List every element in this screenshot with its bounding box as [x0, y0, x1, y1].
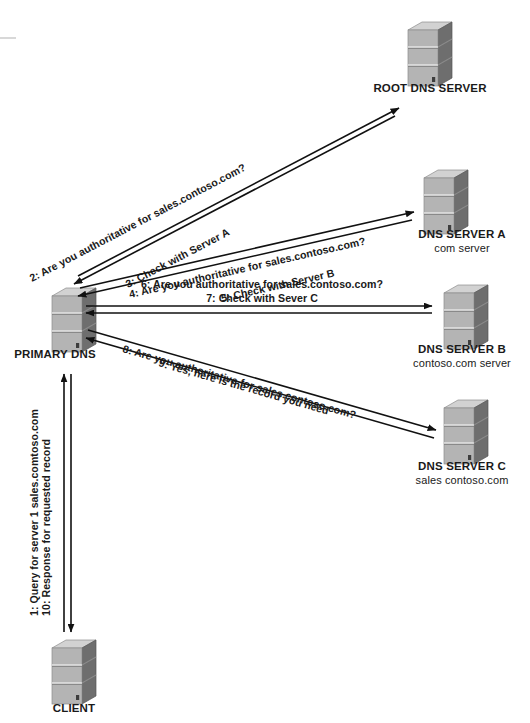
server-icon: [52, 640, 96, 704]
server-icon: [424, 170, 468, 234]
flow-arrow-1-10: [64, 374, 71, 632]
server-icon: [444, 400, 488, 464]
node-primary-dns: PRIMARY DNS: [14, 288, 96, 360]
node-label-dns-server-b: DNS SERVER B: [418, 343, 506, 355]
node-label-dns-server-c: DNS SERVER C: [418, 460, 506, 472]
server-icon: [444, 285, 488, 349]
flow-label-10: 10: Response for requested record: [40, 439, 52, 616]
node-label-root-dns-server: ROOT DNS SERVER: [373, 82, 487, 94]
node-sublabel-dns-server-c: sales contoso.com: [416, 474, 509, 486]
node-sublabel-dns-server-a: com server: [434, 242, 490, 254]
flow-arrow-6-7: [86, 306, 432, 313]
node-dns-server-b: DNS SERVER B contoso.com server: [413, 285, 511, 369]
node-root-dns-server: ROOT DNS SERVER: [373, 22, 487, 94]
node-label-client: CLIENT: [53, 702, 95, 714]
flow-label-9: 9: Yes, here is the record you need: [157, 356, 330, 416]
flow-label-6: 6: Are you authoritative for sales.conto…: [141, 278, 383, 290]
server-icon: [408, 22, 452, 86]
node-client: CLIENT: [52, 640, 96, 714]
node-dns-server-a: DNS SERVER A com server: [418, 170, 505, 254]
flow-arrow-2-3: [74, 108, 399, 284]
flow-label-1: 1: Query for server 1 sales.comtoso.com: [28, 409, 40, 616]
dns-resolution-diagram: ROOT DNS SERVER DNS SERVER A com server …: [0, 0, 530, 723]
node-label-dns-server-a: DNS SERVER A: [418, 228, 505, 240]
node-dns-server-c: DNS SERVER C sales contoso.com: [416, 400, 509, 486]
diagram-canvas: ROOT DNS SERVER DNS SERVER A com server …: [0, 0, 530, 723]
server-icon: [52, 288, 96, 352]
node-label-primary-dns: PRIMARY DNS: [14, 348, 96, 360]
node-sublabel-dns-server-b: contoso.com server: [413, 357, 511, 369]
flow-label-7: 7: Check with Sever C: [206, 292, 318, 304]
